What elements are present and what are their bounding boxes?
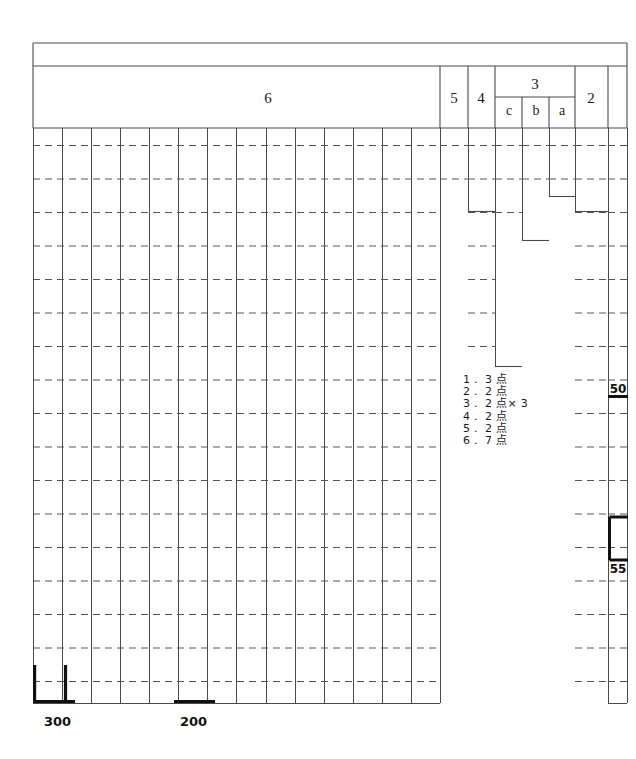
- legend-index-1: 1 .: [463, 373, 478, 386]
- legend-value-1: 3 点: [485, 373, 507, 386]
- axis-label-300: 300: [44, 714, 71, 729]
- axis-label-50: 50: [610, 382, 627, 396]
- axis-label-200: 200: [180, 714, 207, 729]
- header-subcolumn-b[interactable]: b: [533, 103, 540, 118]
- chart-canvas: 6 5 4 3 2 c b a 1 .3 点2 .2 点3 .2 点× 34 .…: [0, 0, 636, 759]
- legend-index-2: 2 .: [463, 385, 478, 398]
- header-subcolumn-a[interactable]: a: [559, 103, 566, 118]
- header-group-2[interactable]: 2: [587, 90, 595, 106]
- axis-label-55: 55: [610, 562, 627, 576]
- legend-index-5: 5 .: [463, 422, 478, 435]
- header-group-5[interactable]: 5: [450, 90, 458, 106]
- tally-chart-root: 6 5 4 3 2 c b a 1 .3 点2 .2 点3 .2 点× 34 .…: [0, 0, 636, 759]
- legend-value-5: 2 点: [485, 422, 507, 435]
- legend-index-3: 3 .: [463, 397, 478, 410]
- legend-value-6: 7 点: [485, 434, 507, 447]
- legend-index-6: 6 .: [463, 434, 478, 447]
- header-group-4[interactable]: 4: [477, 90, 485, 106]
- legend-value-3: 2 点× 3: [485, 397, 528, 410]
- legend-value-4: 2 点: [485, 410, 507, 423]
- header-group-3[interactable]: 3: [531, 76, 539, 92]
- legend-value-2: 2 点: [485, 385, 507, 398]
- header-group-6[interactable]: 6: [264, 90, 272, 106]
- header-subcolumn-c[interactable]: c: [506, 103, 512, 118]
- legend-index-4: 4 .: [463, 410, 478, 423]
